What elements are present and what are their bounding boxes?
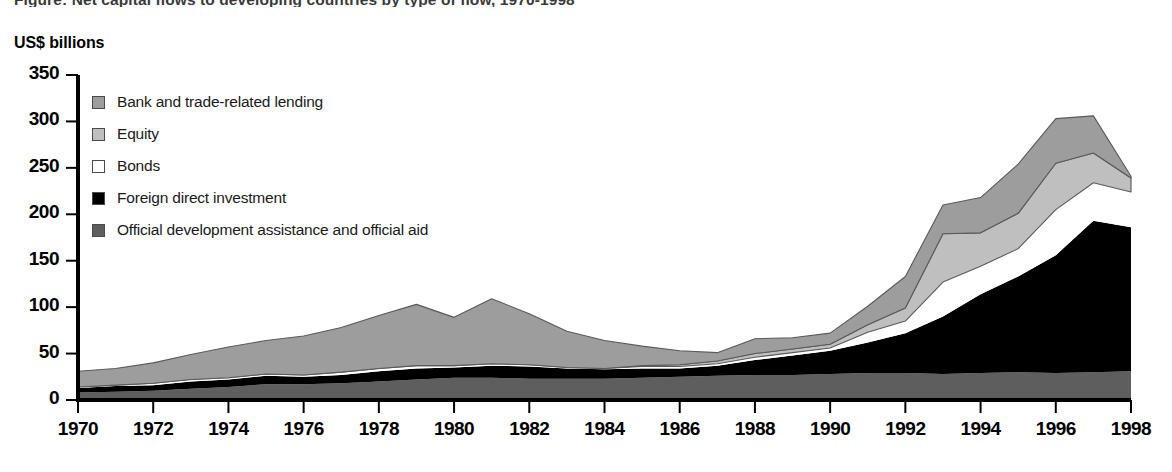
x-tick-label: 1998 [1096,418,1166,440]
x-tick-label: 1986 [645,418,715,440]
x-tick-label: 1974 [193,418,263,440]
y-tick-label: 100 [5,294,59,316]
chart-figure: Figure: Net capital flows to developing … [0,0,1172,472]
x-tick-label: 1976 [269,418,339,440]
x-tick-label: 1982 [494,418,564,440]
legend-label-fdi: Foreign direct investment [117,189,286,207]
x-tick-label: 1992 [870,418,940,440]
x-tick-label: 1988 [720,418,790,440]
legend-swatch-bonds [92,160,105,173]
legend-swatch-oda [92,224,105,237]
x-tick-label: 1990 [795,418,865,440]
y-tick-label: 250 [5,155,59,177]
y-tick-label: 50 [5,341,59,363]
legend-item-oda: Official development assistance and offi… [92,214,428,246]
legend-label-bonds: Bonds [117,157,160,175]
y-tick-label: 0 [5,387,59,409]
x-tick-label: 1972 [118,418,188,440]
y-tick-label: 150 [5,248,59,270]
legend-item-equity: Equity [92,118,428,150]
chart-legend: Bank and trade-related lending Equity Bo… [92,86,428,246]
legend-swatch-equity [92,128,105,141]
y-tick-label: 300 [5,108,59,130]
legend-swatch-fdi [92,192,105,205]
x-tick-label: 1996 [1021,418,1091,440]
y-tick-label: 350 [5,62,59,84]
legend-label-equity: Equity [117,125,159,143]
x-tick-label: 1970 [43,418,113,440]
legend-label-oda: Official development assistance and offi… [117,221,428,239]
legend-item-bank: Bank and trade-related lending [92,86,428,118]
legend-item-bonds: Bonds [92,150,428,182]
x-tick-label: 1978 [344,418,414,440]
legend-item-fdi: Foreign direct investment [92,182,428,214]
x-tick-label: 1984 [570,418,640,440]
legend-label-bank: Bank and trade-related lending [117,93,323,111]
y-tick-label: 200 [5,201,59,223]
x-tick-label: 1994 [946,418,1016,440]
x-tick-label: 1980 [419,418,489,440]
legend-swatch-bank [92,96,105,109]
